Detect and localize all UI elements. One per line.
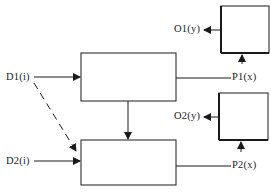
label-d2: D2(i) <box>6 155 30 167</box>
label-o2: O2(y) <box>174 110 200 122</box>
output-block-1 <box>221 6 269 53</box>
process-block-1 <box>81 53 176 101</box>
process-block-2 <box>81 140 176 185</box>
block-diagram <box>0 0 271 193</box>
label-o1: O1(y) <box>174 23 200 35</box>
dashed-arrow-d1-to-block-2 <box>34 83 76 151</box>
label-p1: P1(x) <box>232 71 256 83</box>
label-p2: P2(x) <box>232 159 256 171</box>
output-block-2 <box>219 93 268 140</box>
label-d1: D1(i) <box>6 71 30 83</box>
